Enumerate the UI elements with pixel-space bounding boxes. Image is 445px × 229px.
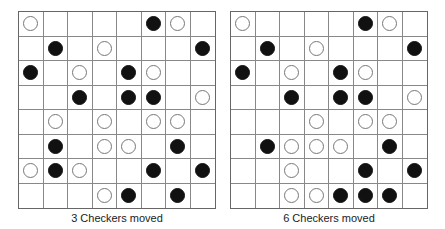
board-cell [256, 37, 281, 62]
board-cell [68, 110, 93, 135]
white-checker-icon [358, 114, 373, 129]
board-cell [93, 184, 118, 209]
grid [231, 12, 427, 208]
board-cell [329, 159, 354, 184]
black-checker-icon [48, 139, 63, 154]
black-checker-icon [407, 163, 422, 178]
caption-6-moved: 6 Checkers moved [230, 212, 428, 224]
black-checker-icon [382, 188, 397, 203]
board-cell [231, 37, 256, 62]
board-cell [403, 184, 428, 209]
board-cell [44, 12, 69, 37]
board-cell [280, 61, 305, 86]
black-checker-icon [48, 41, 63, 56]
board-cell [68, 37, 93, 62]
board-cell [403, 61, 428, 86]
black-checker-icon [260, 41, 275, 56]
board-cell [68, 135, 93, 160]
board-cell [280, 159, 305, 184]
white-checker-icon [23, 163, 38, 178]
board-cell [403, 37, 428, 62]
board-cell [378, 12, 403, 37]
board-cell [191, 86, 216, 111]
board-cell [329, 37, 354, 62]
white-checker-icon [146, 65, 161, 80]
black-checker-icon [358, 163, 373, 178]
board-cell [256, 61, 281, 86]
board-cell [305, 61, 330, 86]
board-cell [329, 135, 354, 160]
white-checker-icon [97, 188, 112, 203]
board-3-moved [18, 11, 216, 209]
board-cell [117, 184, 142, 209]
black-checker-icon [333, 188, 348, 203]
black-checker-icon [333, 65, 348, 80]
board-cell [142, 159, 167, 184]
board-cell [403, 86, 428, 111]
board-cell [191, 159, 216, 184]
board-cell [305, 135, 330, 160]
white-checker-icon [72, 163, 87, 178]
board-cell [19, 110, 44, 135]
board-cell [354, 135, 379, 160]
white-checker-icon [170, 16, 185, 31]
board-cell [378, 184, 403, 209]
board-cell [378, 110, 403, 135]
board-cell [117, 110, 142, 135]
black-checker-icon [121, 90, 136, 105]
black-checker-icon [195, 41, 210, 56]
black-checker-icon [146, 16, 161, 31]
board-cell [256, 135, 281, 160]
board-cell [231, 86, 256, 111]
board-6-moved [230, 11, 428, 209]
board-cell [231, 61, 256, 86]
black-checker-icon [333, 90, 348, 105]
board-cell [329, 110, 354, 135]
board-cell [117, 61, 142, 86]
board-cell [142, 12, 167, 37]
black-checker-icon [358, 90, 373, 105]
board-cell [68, 184, 93, 209]
white-checker-icon [309, 139, 324, 154]
board-cell [166, 110, 191, 135]
board-cell [280, 12, 305, 37]
board-cell [19, 86, 44, 111]
board-cell [280, 86, 305, 111]
board-cell [44, 184, 69, 209]
board-cell [329, 61, 354, 86]
board-cell [142, 61, 167, 86]
white-checker-icon [284, 65, 299, 80]
white-checker-icon [407, 90, 422, 105]
board-cell [256, 159, 281, 184]
board-cell [166, 135, 191, 160]
black-checker-icon [121, 65, 136, 80]
white-checker-icon [309, 41, 324, 56]
board-cell [280, 184, 305, 209]
board-cell [93, 86, 118, 111]
board-cell [93, 110, 118, 135]
board-cell [354, 110, 379, 135]
board-cell [231, 159, 256, 184]
black-checker-icon [48, 163, 63, 178]
board-cell [191, 61, 216, 86]
board-cell [354, 86, 379, 111]
board-cell [44, 37, 69, 62]
board-cell [68, 12, 93, 37]
white-checker-icon [235, 16, 250, 31]
white-checker-icon [284, 188, 299, 203]
board-cell [329, 12, 354, 37]
board-cell [166, 61, 191, 86]
black-checker-icon [72, 90, 87, 105]
board-cell [256, 12, 281, 37]
board-cell [93, 135, 118, 160]
board-cell [44, 86, 69, 111]
caption-3-moved: 3 Checkers moved [18, 212, 216, 224]
board-cell [19, 37, 44, 62]
white-checker-icon [309, 188, 324, 203]
board-cell [280, 135, 305, 160]
board-cell [19, 135, 44, 160]
white-checker-icon [97, 114, 112, 129]
board-cell [378, 37, 403, 62]
white-checker-icon [309, 114, 324, 129]
black-checker-icon [382, 139, 397, 154]
